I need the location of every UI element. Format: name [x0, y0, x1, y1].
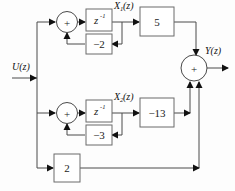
delay-block-top-exponent: -1: [100, 12, 105, 19]
gain-block-feedthrough[interactable]: 2: [54, 154, 80, 182]
gain-block-feedback-bottom-label: −3: [93, 129, 105, 141]
signal-label-x1-tail: (z): [123, 0, 134, 12]
signal-label-output: Y(z): [205, 45, 222, 57]
summer-top[interactable]: +: [57, 12, 78, 33]
arrowhead-gain-neg13-in: [133, 110, 140, 117]
gain-block-feedback-bottom[interactable]: −3: [86, 125, 112, 145]
gain-block-forward-top[interactable]: 5: [140, 7, 174, 36]
gain-block-feedthrough-label: 2: [64, 162, 70, 174]
arrowhead-top-delay-in: [79, 19, 86, 26]
summer-output[interactable]: +: [181, 55, 207, 81]
signal-label-x2-tail: (z): [123, 91, 134, 103]
arrowhead-gain5-in: [133, 19, 140, 26]
signal-label-input: U(z): [12, 61, 30, 73]
arrowhead-output: [222, 65, 229, 72]
delay-block-top[interactable]: z -1: [86, 9, 112, 31]
delay-block-top-base: z: [93, 14, 99, 26]
block-diagram-canvas: + + + z -1 −2 5 z -: [0, 0, 235, 191]
arrowhead-top-summer-in: [49, 19, 56, 26]
gain-block-forward-top-label: 5: [154, 16, 160, 28]
delay-block-bottom-rect[interactable]: [86, 100, 112, 122]
summer-top-sign: +: [64, 17, 70, 29]
arrowhead-output-summer-bot-in: [196, 81, 203, 88]
gain-block-forward-bottom[interactable]: −13: [140, 98, 174, 127]
signal-label-x1: X 1 (z): [113, 0, 134, 12]
arrowhead-bottom-summer-fb-in: [64, 123, 71, 130]
summer-bottom-sign: +: [64, 108, 70, 120]
signal-label-input-text: U(z): [12, 61, 30, 73]
arrowhead-output-summer-mid-in: [187, 81, 194, 88]
gain-block-feedback-top[interactable]: −2: [86, 34, 112, 54]
signal-label-output-text: Y(z): [205, 45, 222, 57]
block-diagram-svg: + + + z -1 −2 5 z -: [0, 0, 235, 191]
arrowhead-feedthrough-in: [47, 165, 54, 172]
gain-block-feedback-top-label: −2: [93, 38, 105, 50]
signal-label-x2: X 2 (z): [113, 91, 134, 103]
arrowhead-top-summer-fb-in: [64, 32, 71, 39]
delay-block-top-rect[interactable]: [86, 9, 112, 31]
arrowhead-input: [30, 75, 37, 82]
delay-block-bottom-base: z: [93, 105, 99, 117]
arrowhead-bottom-summer-in: [49, 110, 56, 117]
gain-block-forward-bottom-label: −13: [148, 107, 166, 119]
summer-bottom[interactable]: +: [57, 103, 78, 124]
delay-block-bottom-exponent: -1: [100, 103, 105, 110]
summer-output-sign: +: [191, 63, 197, 75]
delay-block-bottom[interactable]: z -1: [86, 100, 112, 122]
arrowhead-bottom-delay-in: [79, 110, 86, 117]
